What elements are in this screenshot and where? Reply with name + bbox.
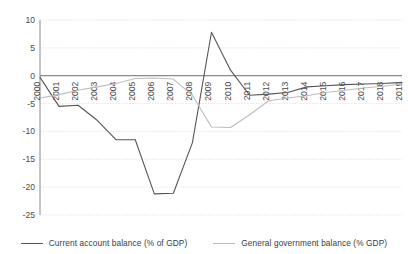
- svg-text:-20: -20: [23, 182, 36, 192]
- svg-text:2007: 2007: [165, 82, 175, 101]
- svg-text:2001: 2001: [51, 82, 61, 101]
- svg-text:0: 0: [30, 71, 35, 81]
- svg-text:2015: 2015: [318, 82, 328, 101]
- svg-text:2012: 2012: [261, 82, 271, 101]
- svg-text:-25: -25: [23, 210, 36, 220]
- chart-legend: Current account balance (% of GDP) Gener…: [0, 238, 408, 248]
- svg-text:2003: 2003: [89, 82, 99, 101]
- legend-label-current-account: Current account balance (% of GDP): [49, 238, 188, 248]
- svg-text:-10: -10: [23, 126, 36, 136]
- svg-text:2006: 2006: [146, 82, 156, 101]
- svg-text:2005: 2005: [127, 82, 137, 101]
- svg-text:2010: 2010: [223, 82, 233, 101]
- line-chart-plot: 1050-5-10-15-20-25 200020012002200320042…: [0, 0, 408, 254]
- svg-text:2018: 2018: [375, 82, 385, 101]
- legend-label-government-balance: General government balance (% GDP): [241, 238, 387, 248]
- svg-text:10: 10: [25, 15, 35, 25]
- svg-text:2008: 2008: [184, 82, 194, 101]
- svg-text:2009: 2009: [203, 82, 213, 101]
- svg-text:5: 5: [30, 43, 35, 53]
- legend-entry-current-account: Current account balance (% of GDP): [21, 238, 188, 248]
- svg-text:-15: -15: [23, 154, 36, 164]
- legend-swatch-government-balance: [213, 243, 235, 244]
- chart-container: 1050-5-10-15-20-25 200020012002200320042…: [0, 0, 408, 254]
- legend-swatch-current-account: [21, 243, 43, 244]
- legend-entry-government-balance: General government balance (% GDP): [213, 238, 387, 248]
- y-axis-tick-labels: 1050-5-10-15-20-25: [23, 15, 36, 220]
- svg-text:2014: 2014: [299, 82, 309, 101]
- series-lines: [40, 32, 402, 194]
